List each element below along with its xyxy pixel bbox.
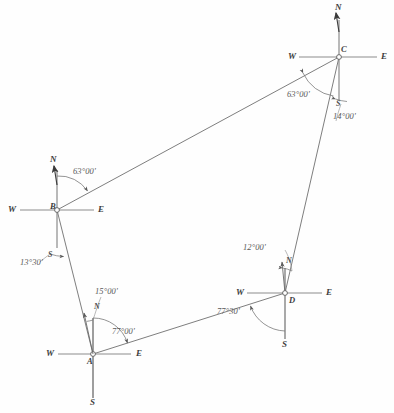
cardinal-label-n-c: N xyxy=(335,3,342,12)
traverse-diagram: W E S N A W E N S B W E N S C W E S N D … xyxy=(0,0,394,413)
station-label-c: C xyxy=(341,45,347,54)
cardinal-label-w-b: W xyxy=(8,205,16,214)
station-node-c xyxy=(337,55,342,60)
angle-label-b-ne: 63°00' xyxy=(73,167,96,176)
arc-b-63 xyxy=(57,176,88,191)
compass-rose-b xyxy=(20,166,94,262)
leg-bc xyxy=(57,57,339,210)
cardinal-label-n-b: N xyxy=(50,155,57,164)
arc-d-77 xyxy=(251,306,286,331)
cardinal-label-w-c: W xyxy=(288,52,296,61)
angle-label-c-se: 14°00' xyxy=(333,112,356,121)
cardinal-label-s-c: S xyxy=(336,100,340,108)
compass-rose-a xyxy=(58,297,131,398)
cardinal-label-w-d: W xyxy=(236,288,244,297)
diagram-canvas xyxy=(0,0,394,413)
angle-label-d-n: 12°00' xyxy=(243,243,266,252)
cardinal-label-s-d: S xyxy=(282,340,287,349)
compass-rose-d xyxy=(247,250,322,339)
cardinal-label-w-a: W xyxy=(46,349,54,358)
leg-ab xyxy=(57,210,93,354)
angle-label-a-n: 15°00' xyxy=(95,287,118,296)
station-node-d xyxy=(283,291,288,296)
station-label-d: D xyxy=(289,296,295,305)
angle-label-c-nw: 63°00' xyxy=(287,90,310,99)
leg-da xyxy=(93,293,285,354)
arc-a-15 xyxy=(87,320,93,321)
cardinal-label-n-d: N xyxy=(286,257,292,265)
cardinal-label-e-d: E xyxy=(326,288,332,297)
cardinal-label-e-c: E xyxy=(381,52,387,61)
station-label-b: B xyxy=(50,202,56,211)
angle-label-b-sw: 13°30' xyxy=(20,258,43,267)
cardinal-label-e-b: E xyxy=(98,205,104,214)
angle-label-d-sw: 77°30' xyxy=(217,307,240,316)
cardinal-label-s-a: S xyxy=(90,398,95,407)
cardinal-label-e-a: E xyxy=(136,349,142,358)
cardinal-label-n-a: N xyxy=(94,303,100,311)
angle-label-a-e: 77°00' xyxy=(112,327,135,336)
meridian-a xyxy=(84,313,93,354)
station-label-a: A xyxy=(87,357,93,366)
cardinal-label-s-b: S xyxy=(48,251,52,259)
